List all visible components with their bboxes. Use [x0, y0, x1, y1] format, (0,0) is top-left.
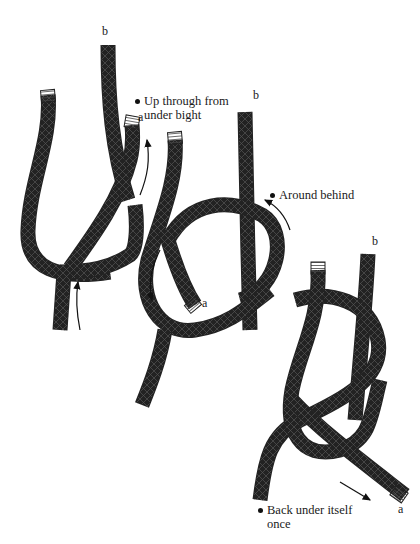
direction-arrow-icon	[340, 482, 370, 500]
knot-diagram	[0, 0, 420, 544]
rope-end-whipping	[41, 89, 56, 102]
bullet-icon	[258, 508, 263, 513]
rope-segment	[28, 95, 110, 275]
direction-arrow-icon	[77, 282, 80, 330]
rope-end-whipping	[168, 131, 183, 144]
step-note: Up through from under bight	[135, 94, 229, 122]
rope-end-whipping	[311, 262, 325, 274]
stage-1-diagram	[28, 45, 148, 330]
bullet-icon	[270, 193, 275, 198]
rope-end-label-a: a	[398, 502, 403, 517]
rope-segment	[60, 272, 64, 330]
direction-arrow-icon	[140, 140, 148, 195]
step-note-line: Around behind	[279, 188, 354, 202]
step-note-line: Up through from	[144, 94, 229, 108]
step-note-line: once	[258, 517, 291, 531]
stage-3-diagram	[260, 254, 408, 503]
rope-end-label-b: b	[253, 88, 259, 103]
rope-end-label-b: b	[102, 24, 108, 39]
rope-end-label-b: b	[372, 234, 378, 249]
rope-segment	[142, 330, 165, 405]
step-note-line: Back under itself	[267, 503, 352, 517]
rope-end-label-a: a	[202, 296, 207, 311]
rope-segment	[165, 230, 195, 305]
step-note: Around behind	[270, 188, 354, 202]
bullet-icon	[135, 99, 140, 104]
stage-2-diagram	[142, 112, 290, 405]
step-note-line: under bight	[135, 108, 201, 122]
step-note: Back under itself once	[258, 503, 352, 531]
